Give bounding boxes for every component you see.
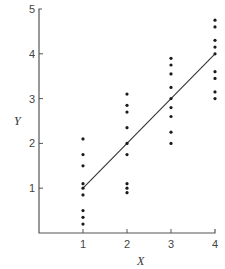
data-points	[81, 19, 216, 226]
x-tick-label: 3	[168, 238, 174, 250]
x-tick-label: 1	[80, 238, 86, 250]
data-point	[125, 187, 128, 190]
x-tick-label: 2	[124, 238, 130, 250]
fitted-line	[83, 54, 215, 188]
data-point	[125, 191, 128, 194]
data-point	[169, 72, 172, 75]
ticks: 123451234	[29, 3, 218, 250]
data-point	[125, 104, 128, 107]
data-point	[81, 182, 84, 185]
data-point	[125, 110, 128, 113]
data-point	[125, 93, 128, 96]
data-point	[169, 131, 172, 134]
data-point	[125, 182, 128, 185]
regression-line	[83, 54, 215, 188]
data-point	[213, 19, 216, 22]
y-tick-label: 5	[29, 3, 35, 15]
data-point	[213, 70, 216, 73]
data-point	[169, 115, 172, 118]
data-point	[81, 209, 84, 212]
data-point	[169, 142, 172, 145]
data-point	[81, 222, 84, 225]
data-point	[81, 164, 84, 167]
scatter-plot: 123451234 Y X	[0, 0, 225, 269]
data-point	[213, 97, 216, 100]
data-point	[213, 45, 216, 48]
data-point	[213, 25, 216, 28]
data-point	[169, 57, 172, 60]
data-point	[213, 90, 216, 93]
data-point	[169, 97, 172, 100]
data-point	[213, 52, 216, 55]
data-point	[81, 193, 84, 196]
y-tick-label: 2	[29, 137, 35, 149]
data-point	[81, 216, 84, 219]
data-point	[125, 126, 128, 129]
y-tick-label: 3	[29, 93, 35, 105]
data-point	[169, 86, 172, 89]
data-point	[81, 153, 84, 156]
x-axis-label: X	[136, 254, 145, 268]
data-point	[81, 137, 84, 140]
y-tick-label: 1	[29, 182, 35, 194]
data-point	[169, 106, 172, 109]
y-axis-label: Y	[14, 114, 22, 128]
data-point	[213, 77, 216, 80]
x-tick-label: 4	[212, 238, 218, 250]
data-point	[213, 39, 216, 42]
data-point	[125, 153, 128, 156]
data-point	[125, 142, 128, 145]
y-tick-label: 4	[29, 48, 35, 60]
axes	[39, 9, 215, 233]
data-point	[81, 187, 84, 190]
axis-lines	[39, 9, 215, 233]
data-point	[169, 63, 172, 66]
